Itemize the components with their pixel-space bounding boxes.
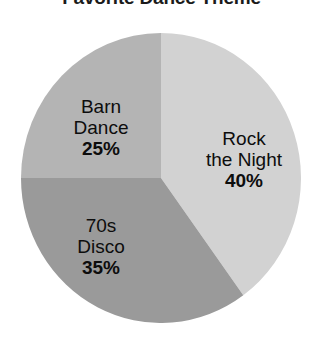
pie-label-rock-the-night-value: 40% xyxy=(186,170,302,191)
pie-label-rock-the-night: Rock the Night 40% xyxy=(186,128,302,191)
pie-label-70s-disco: 70s Disco 35% xyxy=(46,215,156,278)
pie-label-70s-disco-value: 35% xyxy=(46,257,156,278)
pie-label-rock-the-night-line2: the Night xyxy=(186,149,302,170)
pie-label-barn-dance: Barn Dance 25% xyxy=(48,96,154,159)
pie-label-barn-dance-value: 25% xyxy=(48,138,154,159)
pie-label-barn-dance-line1: Barn xyxy=(48,96,154,117)
pie-label-70s-disco-line1: 70s xyxy=(46,215,156,236)
chart-title: Favorite Dance Theme xyxy=(0,0,323,9)
pie-label-rock-the-night-line1: Rock xyxy=(186,128,302,149)
pie-label-barn-dance-line2: Dance xyxy=(48,117,154,138)
pie-label-70s-disco-line2: Disco xyxy=(46,236,156,257)
